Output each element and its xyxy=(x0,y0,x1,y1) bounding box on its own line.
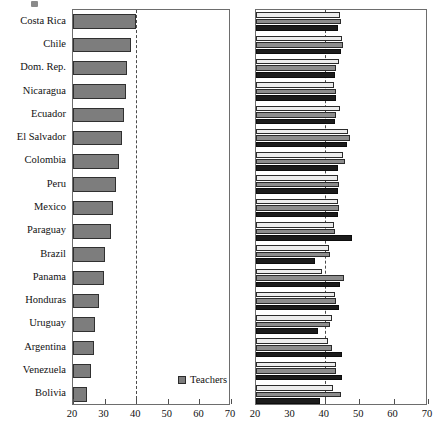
bar-sample-3 xyxy=(256,72,335,78)
x-axis-tick-label: 20 xyxy=(67,407,78,420)
bar-sample-2 xyxy=(256,182,339,188)
bar-sample-1 xyxy=(256,385,333,391)
bar-sample-3 xyxy=(256,188,338,194)
bar-teachers xyxy=(73,224,111,238)
bar-sample-2 xyxy=(256,135,350,141)
x-axis-tick-label: 40 xyxy=(130,407,141,420)
bar-teachers xyxy=(73,341,94,355)
country-label: Brazil xyxy=(40,248,66,259)
bar-sample-2 xyxy=(256,392,341,398)
bar-sample-3 xyxy=(256,119,335,125)
bar-sample-3 xyxy=(256,142,347,148)
legend-swatch-icon xyxy=(178,376,186,384)
x-axis-tick xyxy=(428,399,429,404)
bar-teachers xyxy=(73,201,113,215)
country-label: Nicaragua xyxy=(23,85,66,96)
bar-sample-1 xyxy=(256,12,340,18)
country-label: Colombia xyxy=(25,154,66,165)
bar-sample-2 xyxy=(256,112,336,118)
x-axis-tick-label: 70 xyxy=(225,407,236,420)
country-label: Peru xyxy=(47,178,66,189)
bar-teachers xyxy=(73,38,131,52)
bar-sample-1 xyxy=(256,199,338,205)
bar-sample-1 xyxy=(256,129,348,135)
x-axis-tick xyxy=(231,399,232,404)
bar-teachers xyxy=(73,14,136,28)
bar-sample-3 xyxy=(256,282,340,288)
country-label: Uruguay xyxy=(29,317,66,328)
x-axis-tick xyxy=(73,399,74,404)
bar-sample-1 xyxy=(256,106,340,112)
bar-sample-1 xyxy=(256,269,322,275)
bar-sample-1 xyxy=(256,338,328,344)
bar-sample-1 xyxy=(256,175,338,181)
bar-sample-3 xyxy=(256,305,339,311)
bar-sample-3 xyxy=(256,375,342,381)
bar-sample-3 xyxy=(256,212,338,218)
bar-sample-1 xyxy=(256,36,342,42)
country-label: Ecuador xyxy=(31,108,66,119)
chart-figure: Costa RicaChileDom. Rep.NicaraguaEcuador… xyxy=(0,0,434,430)
country-label: Bolivia xyxy=(35,387,66,398)
x-axis-tick-label: 30 xyxy=(98,407,109,420)
bar-teachers xyxy=(73,364,91,378)
bar-teachers xyxy=(73,154,119,168)
bar-sample-2 xyxy=(256,322,330,328)
country-label: Mexico xyxy=(34,201,66,212)
bar-sample-2 xyxy=(256,275,344,281)
bar-sample-3 xyxy=(256,398,320,404)
country-axis-labels: Costa RicaChileDom. Rep.NicaraguaEcuador… xyxy=(0,9,69,405)
x-axis-tick-label: 40 xyxy=(319,407,330,420)
country-label: Costa Rica xyxy=(20,15,66,26)
bar-sample-3 xyxy=(256,95,336,101)
bar-teachers xyxy=(73,84,126,98)
left-chart-panel: Costa RicaChileDom. Rep.NicaraguaEcuador… xyxy=(0,0,240,430)
bar-teachers xyxy=(73,61,127,75)
bar-sample-1 xyxy=(256,222,334,228)
right-x-axis-tick-labels: 203040506070 xyxy=(255,407,427,423)
x-axis-tick-label: 70 xyxy=(422,407,433,420)
bar-sample-1 xyxy=(256,292,335,298)
x-axis-tick xyxy=(199,399,200,404)
bar-sample-3 xyxy=(256,328,318,334)
bar-sample-1 xyxy=(256,82,334,88)
x-axis-tick-label: 20 xyxy=(250,407,261,420)
country-label: Chile xyxy=(43,38,66,49)
x-axis-tick-label: 50 xyxy=(353,407,364,420)
reference-line-40 xyxy=(136,10,137,404)
left-plot-area xyxy=(72,9,230,405)
legend-label: Teachers xyxy=(190,374,227,385)
x-axis-tick xyxy=(325,399,326,404)
bar-sample-2 xyxy=(256,252,330,258)
bar-teachers xyxy=(73,177,116,191)
left-x-axis-tick-labels: 203040506070 xyxy=(72,407,230,423)
x-axis-tick xyxy=(359,399,360,404)
x-axis-tick xyxy=(394,399,395,404)
bar-sample-1 xyxy=(256,152,343,158)
country-label: Argentina xyxy=(24,341,66,352)
bar-sample-3 xyxy=(256,235,352,241)
bar-teachers xyxy=(73,387,87,401)
bar-sample-1 xyxy=(256,362,336,368)
bar-teachers xyxy=(73,317,95,331)
bar-teachers xyxy=(73,271,104,285)
bar-sample-3 xyxy=(256,165,338,171)
bar-sample-2 xyxy=(256,368,336,374)
x-axis-tick xyxy=(136,399,137,404)
country-label: Honduras xyxy=(25,294,66,305)
legend-item: Teachers xyxy=(178,374,227,385)
bar-sample-2 xyxy=(256,298,336,304)
bar-sample-2 xyxy=(256,205,339,211)
bar-sample-1 xyxy=(256,245,329,251)
bar-sample-3 xyxy=(256,25,338,31)
left-legend: Teachers xyxy=(178,374,227,386)
country-label: Paraguay xyxy=(27,224,66,235)
bar-sample-2 xyxy=(256,42,343,48)
country-label: El Salvador xyxy=(17,131,66,142)
bar-sample-3 xyxy=(256,352,342,358)
x-axis-tick-label: 60 xyxy=(387,407,398,420)
bar-teachers xyxy=(73,294,99,308)
x-axis-tick-label: 60 xyxy=(193,407,204,420)
bar-teachers xyxy=(73,247,105,261)
bar-sample-2 xyxy=(256,159,345,165)
